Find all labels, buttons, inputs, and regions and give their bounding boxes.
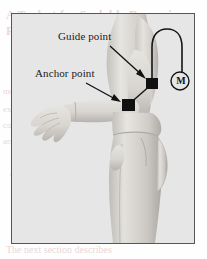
page-root: A Toolset for Scalable Dynamic Recreatio… [0,0,207,259]
anchor-point-marker[interactable] [122,99,135,111]
guide-point-label: Guide point [58,30,111,42]
guide-point-marker[interactable] [146,78,158,89]
figure-illustration [12,14,194,243]
measurement-unit-label: M [175,75,187,86]
background-text-line-9: The next section describes [6,244,112,255]
figure-panel: Guide point Anchor point M [11,13,195,244]
anchor-point-label: Anchor point [35,67,95,79]
